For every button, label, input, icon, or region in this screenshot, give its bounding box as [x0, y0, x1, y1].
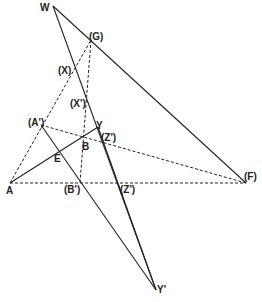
line-a-g	[10, 40, 91, 183]
point-label-b: B	[82, 141, 89, 152]
point-label-ap: (A')	[28, 117, 44, 128]
point-label-y: Y	[96, 120, 103, 131]
point-label-a: A	[6, 185, 13, 196]
point-label-z: (Z')	[101, 132, 116, 143]
point-label-zp: (Z')	[120, 184, 135, 195]
point-label-g: (G)	[89, 31, 103, 42]
line-g-bp	[80, 40, 91, 183]
point-label-e: E	[54, 153, 61, 164]
point-label-w: W	[40, 2, 50, 13]
line-ap-f	[41, 125, 246, 183]
point-label-bp: (B')	[64, 184, 80, 195]
diagram-labels: W(G)(X)(X')(A')YB(Z')EA(B')(Z')(F)Y'	[6, 2, 257, 295]
point-label-xp: (X')	[70, 98, 86, 109]
point-label-f: (F)	[244, 171, 257, 182]
geometry-diagram: W(G)(X)(X')(A')YB(Z')EA(B')(Z')(F)Y'	[0, 0, 262, 302]
point-label-x: (X)	[58, 65, 71, 76]
point-label-yp: Y'	[157, 284, 166, 295]
diagram-lines	[10, 6, 246, 290]
line-y-yp	[98, 127, 156, 290]
line-ap-yp	[41, 125, 156, 290]
